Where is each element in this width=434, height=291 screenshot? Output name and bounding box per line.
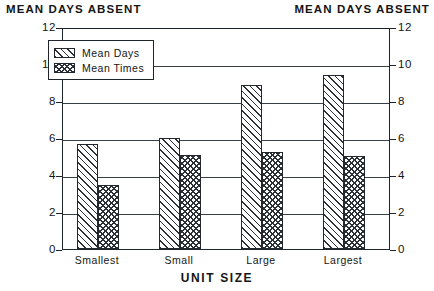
x-tick-label-smallest: Smallest [75,254,119,266]
y-axis-title-left: MEAN DAYS ABSENT [6,3,142,15]
y-tick-label-left: 4 [49,169,56,181]
legend-swatch-icon [54,63,75,73]
y-tick-mark-right [390,250,396,251]
y-tick-label-right: 2 [398,206,405,218]
bar-small-mean-days [159,138,180,249]
y-tick-label-right: 10 [398,58,412,70]
y-tick-label-right: 12 [398,21,412,33]
y-tick-mark-right [390,139,396,140]
y-tick-label-right: 4 [398,169,405,181]
y-tick-label-left: 6 [49,132,56,144]
y-tick-label-left: 12 [42,21,56,33]
y-tick-mark-right [390,65,396,66]
y-tick-mark-right [390,176,396,177]
y-tick-mark-left [56,250,62,251]
y-tick-mark-right [390,28,396,29]
bar-chart-figure: MEAN DAYS ABSENT MEAN DAYS ABSENT 002244… [0,0,434,291]
bar-small-mean-times [180,155,201,249]
legend-label: Mean Times [82,62,144,74]
bar-smallest-mean-days [77,144,98,249]
y-tick-mark-right [390,213,396,214]
bar-large-mean-times [262,152,283,249]
legend-item-mean-times: Mean Times [54,60,144,75]
y-tick-label-right: 8 [398,95,405,107]
y-tick-label-left: 8 [49,95,56,107]
legend-label: Mean Days [82,47,140,59]
bar-smallest-mean-times [98,185,119,249]
y-tick-mark-right [390,102,396,103]
x-axis-title: UNIT SIZE [0,271,434,285]
x-tick-label-largest: Largest [324,254,363,266]
y-tick-mark-left [56,102,62,103]
bar-largest-mean-times [344,156,365,249]
y-tick-label-left: 2 [49,206,56,218]
x-tick-label-small: Small [165,254,194,266]
y-tick-label-left: 0 [49,243,56,255]
y-tick-mark-left [56,213,62,214]
bar-largest-mean-days [323,75,344,249]
y-tick-label-right: 6 [398,132,405,144]
y-tick-mark-left [56,139,62,140]
y-tick-mark-left [56,28,62,29]
y-axis-title-right: MEAN DAYS ABSENT [294,3,430,15]
bar-large-mean-days [241,85,262,249]
chart-legend: Mean DaysMean Times [48,40,154,80]
x-tick-label-large: Large [246,254,275,266]
legend-item-mean-days: Mean Days [54,45,144,60]
y-tick-label-right: 0 [398,243,405,255]
legend-swatch-icon [54,48,75,58]
y-tick-mark-left [56,176,62,177]
